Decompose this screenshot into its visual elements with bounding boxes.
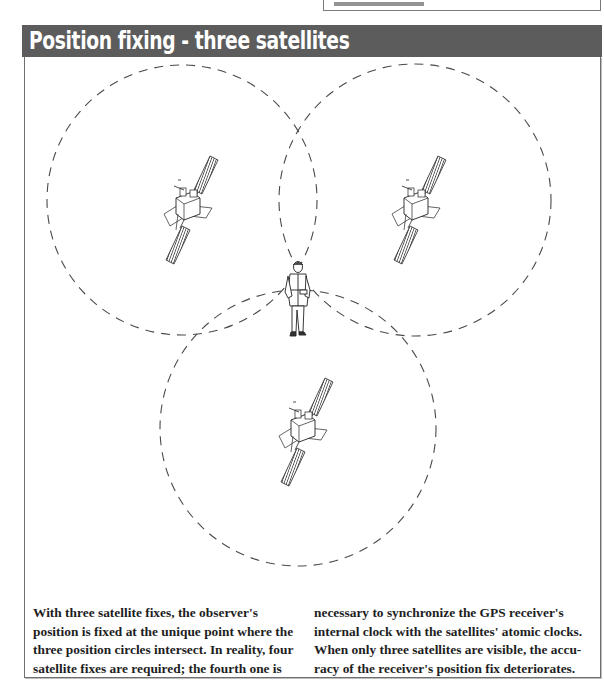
caption-line: position is fixed at the unique point wh…	[33, 623, 295, 642]
satellite-icon	[279, 378, 333, 486]
position-fix-diagram	[0, 0, 604, 691]
observer-figure-icon	[285, 262, 310, 337]
caption-line: satellite fixes are required; the fourth…	[33, 660, 295, 679]
caption-line: With three satellite fixes, the observer…	[33, 604, 295, 623]
caption-right-column: necessary to synchronize the GPS receive…	[314, 604, 604, 678]
caption-line: racy of the receiver's position fix dete…	[314, 660, 604, 679]
satellite-icon	[164, 156, 218, 264]
caption-line: internal clock with the satellites' atom…	[314, 623, 604, 642]
satellite-icon	[392, 156, 446, 264]
caption-line: necessary to synchronize the GPS receive…	[314, 604, 604, 623]
caption-line: When only three satellites are visible, …	[314, 641, 604, 660]
caption-line: three position circles intersect. In rea…	[33, 641, 295, 660]
caption-left-column: With three satellite fixes, the observer…	[33, 604, 295, 678]
